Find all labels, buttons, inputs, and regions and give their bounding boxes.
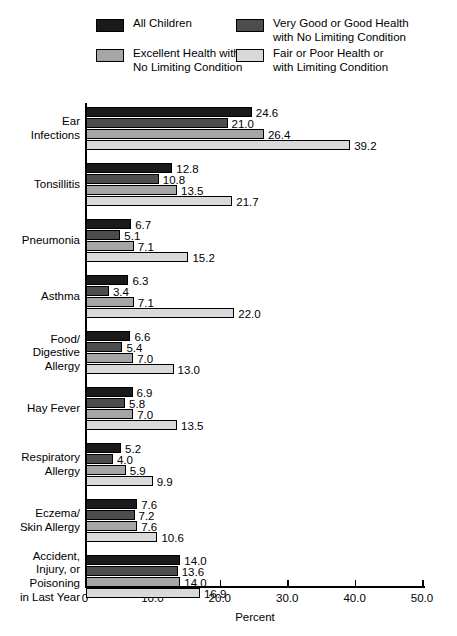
category-label-2: Pneumonia — [22, 234, 80, 248]
category-label-5: Hay Fever — [27, 402, 80, 416]
category-label-4: Food/ Digestive Allergy — [33, 333, 80, 374]
category-label-8: Accident, Injury, or Poisoning in Last Y… — [20, 550, 80, 604]
bar-2-3 — [86, 252, 188, 262]
bar-0-1 — [86, 118, 228, 128]
x-tick-label-5: 50.0 — [411, 592, 433, 604]
bar-1-2 — [86, 185, 177, 195]
category-label-1: Tonsillitis — [34, 178, 80, 192]
x-tick-label-4: 40.0 — [343, 592, 365, 604]
bar-5-3 — [86, 420, 177, 430]
bar-chart-plot: 010.020.030.040.050.0 24.621.026.439.212… — [0, 0, 457, 636]
bar-value-label-5-3: 13.5 — [181, 421, 203, 432]
bar-0-0 — [86, 107, 252, 117]
x-tick-label-3: 30.0 — [276, 592, 298, 604]
x-axis-title: Percent — [85, 611, 425, 623]
bar-value-label-4-3: 13.0 — [178, 365, 200, 376]
bar-value-label-0-3: 39.2 — [354, 141, 376, 152]
bar-6-0 — [86, 443, 121, 453]
bar-1-0 — [86, 163, 172, 173]
bar-3-0 — [86, 275, 128, 285]
bar-6-1 — [86, 454, 113, 464]
bar-0-3 — [86, 140, 350, 150]
bar-2-1 — [86, 230, 120, 240]
category-label-3: Asthma — [41, 290, 80, 304]
bar-value-label-1-3: 21.7 — [236, 197, 258, 208]
bar-value-label-2-3: 15.2 — [192, 253, 214, 264]
bar-7-2 — [86, 521, 137, 531]
bar-3-1 — [86, 286, 109, 296]
bar-value-label-6-3: 9.9 — [157, 477, 173, 488]
category-label-6: Respiratory Allergy — [21, 451, 80, 478]
bar-1-3 — [86, 196, 232, 206]
bar-5-0 — [86, 387, 133, 397]
bar-value-label-7-3: 10.6 — [161, 533, 183, 544]
bar-5-2 — [86, 409, 133, 419]
bar-7-3 — [86, 532, 157, 542]
bar-4-3 — [86, 364, 174, 374]
bar-2-2 — [86, 241, 134, 251]
bar-7-0 — [86, 499, 137, 509]
bar-4-2 — [86, 353, 133, 363]
bar-value-label-3-3: 22.0 — [238, 309, 260, 320]
bar-8-3 — [86, 588, 200, 598]
bar-3-3 — [86, 308, 234, 318]
bar-8-0 — [86, 555, 180, 565]
bar-5-1 — [86, 398, 125, 408]
x-tick-2 — [220, 580, 222, 587]
bar-6-3 — [86, 476, 153, 486]
category-label-7: Eczema/ Skin Allergy — [20, 507, 80, 534]
bar-8-2 — [86, 577, 180, 587]
bar-7-1 — [86, 510, 135, 520]
bar-1-1 — [86, 174, 159, 184]
bar-8-1 — [86, 566, 178, 576]
bar-6-2 — [86, 465, 126, 475]
bar-4-1 — [86, 342, 122, 352]
bar-value-label-8-3: 16.9 — [204, 589, 226, 600]
x-tick-3 — [287, 580, 289, 587]
bar-2-0 — [86, 219, 131, 229]
bar-value-label-0-0: 24.6 — [256, 108, 278, 119]
bar-value-label-3-0: 6.3 — [132, 276, 148, 287]
bar-4-0 — [86, 331, 130, 341]
bar-0-2 — [86, 129, 264, 139]
bar-3-2 — [86, 297, 134, 307]
category-label-0: Ear Infections — [31, 115, 80, 142]
x-tick-4 — [355, 580, 357, 587]
x-tick-5 — [422, 580, 424, 587]
